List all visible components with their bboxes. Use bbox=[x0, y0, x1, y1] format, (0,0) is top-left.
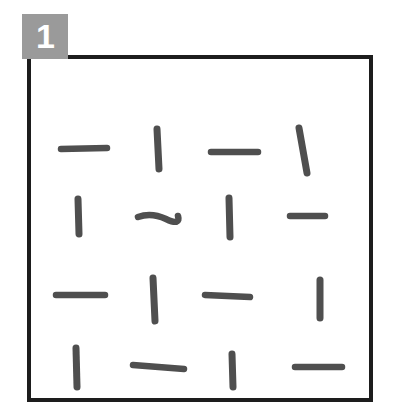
stroke-group bbox=[56, 128, 342, 387]
figure-root: 1 bbox=[0, 0, 393, 417]
line-segment-vertical-r1c4 bbox=[299, 128, 307, 173]
panel-number-badge: 1 bbox=[22, 14, 68, 59]
line-segment-vertical-r1c2 bbox=[157, 129, 159, 169]
line-segment-vertical-r4c3 bbox=[232, 354, 233, 387]
line-segment-vertical-r4c1 bbox=[76, 348, 77, 387]
stimulus-frame bbox=[27, 55, 373, 402]
line-segment-horizontal-r1c1 bbox=[61, 148, 107, 149]
line-segment-vertical-r3c2 bbox=[153, 278, 155, 321]
panel-number-label: 1 bbox=[36, 19, 54, 53]
stroke-canvas bbox=[31, 59, 369, 398]
scan-bottom-edge bbox=[0, 405, 393, 417]
line-segment-horizontal-r4c2 bbox=[133, 365, 184, 369]
line-segment-horizontal-r3c3 bbox=[205, 295, 250, 297]
line-segment-horizontal-r2c2 bbox=[138, 215, 178, 222]
line-segment-vertical-r2c3 bbox=[229, 198, 230, 237]
line-segment-vertical-r2c1 bbox=[78, 199, 79, 234]
